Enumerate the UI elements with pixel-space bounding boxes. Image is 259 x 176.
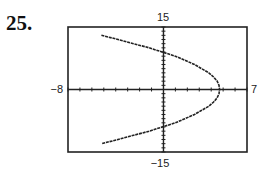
xmax-label: 7 [251, 83, 257, 95]
ymax-label: 15 [157, 11, 169, 23]
ymin-label: −15 [151, 157, 170, 169]
graphing-calculator-plot: 15 −15 −8 7 [0, 0, 259, 176]
xmin-label: −8 [50, 83, 63, 95]
